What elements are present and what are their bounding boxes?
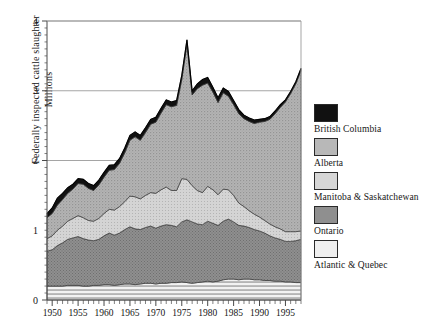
y-tick-label: 1: [33, 225, 38, 236]
y-tick-label: 3: [33, 85, 38, 96]
legend-item-british-columbia[interactable]: British Columbia: [314, 104, 438, 135]
x-tick-label: 1975: [172, 308, 191, 318]
x-tick-label: 1950: [43, 308, 62, 318]
x-tick-label: 1960: [95, 308, 114, 318]
legend-swatch-manitoba-saskatchewan: [314, 172, 338, 190]
legend-item-ontario[interactable]: Ontario: [314, 206, 438, 237]
legend-swatch-british-columbia: [314, 104, 338, 122]
legend-label-ontario: Ontario: [314, 225, 438, 237]
legend-label-atlantic-quebec: Atlantic & Quebec: [314, 259, 438, 271]
legend-item-manitoba-saskatchewan[interactable]: Manitoba & Saskatchewan: [314, 172, 438, 203]
y-tick-label: 2: [33, 155, 38, 166]
x-tick-label: 1965: [120, 308, 139, 318]
legend-label-british-columbia: British Columbia: [314, 123, 438, 135]
y-tick-label: 0: [33, 295, 38, 306]
x-tick-label: 1955: [69, 308, 88, 318]
legend-swatch-alberta: [314, 138, 338, 156]
x-tick-label: 1970: [146, 308, 165, 318]
legend-swatch-atlantic-quebec: [314, 240, 338, 258]
x-tick-label: 1985: [224, 308, 243, 318]
legend-swatch-ontario: [314, 206, 338, 224]
area-series-layer: [47, 40, 301, 300]
y-tick-label: 4: [33, 16, 38, 27]
x-tick-label: 1990: [250, 308, 269, 318]
legend-item-atlantic-quebec[interactable]: Atlantic & Quebec: [314, 240, 438, 271]
x-tick-label: 1980: [198, 308, 217, 318]
x-tick-label: 1995: [276, 308, 295, 318]
legend-item-alberta[interactable]: Alberta: [314, 138, 438, 169]
legend-label-alberta: Alberta: [314, 157, 438, 169]
legend-label-manitoba-saskatchewan: Manitoba & Saskatchewan: [314, 191, 438, 203]
chart-legend: British Columbia Alberta Manitoba & Sask…: [314, 104, 438, 274]
chart-figure: Federally inspected cattle slaughter Mil…: [0, 0, 438, 330]
